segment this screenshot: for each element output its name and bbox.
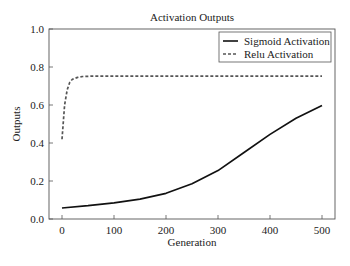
x-tick-label: 500 — [314, 224, 331, 236]
x-tick-label: 100 — [106, 224, 123, 236]
chart-title: Activation Outputs — [150, 11, 234, 23]
legend-relu-label: Relu Activation — [244, 48, 314, 60]
y-axis-label: Outputs — [10, 107, 22, 142]
x-tick-label: 300 — [210, 224, 227, 236]
x-axis: 0100200300400500 — [59, 215, 331, 236]
chart: Activation Outputs 0.00.20.40.60.81.0 01… — [0, 0, 350, 266]
y-tick-label: 1.0 — [30, 23, 44, 35]
y-tick-label: 0.6 — [30, 99, 44, 111]
x-axis-label: Generation — [168, 236, 217, 248]
x-tick-label: 0 — [59, 224, 65, 236]
y-tick-label: 0.0 — [30, 213, 44, 225]
legend-sigmoid-label: Sigmoid Activation — [244, 35, 330, 47]
sigmoid-line — [62, 105, 322, 208]
y-tick-label: 0.4 — [30, 137, 44, 149]
plot-lines — [62, 76, 322, 208]
y-tick-label: 0.2 — [30, 175, 44, 187]
relu-line — [62, 76, 322, 139]
y-tick-label: 0.8 — [30, 61, 44, 73]
y-axis: 0.00.20.40.60.81.0 — [30, 23, 53, 225]
x-tick-label: 200 — [158, 224, 175, 236]
x-tick-label: 400 — [262, 224, 279, 236]
legend: Sigmoid Activation Relu Activation — [219, 32, 331, 62]
